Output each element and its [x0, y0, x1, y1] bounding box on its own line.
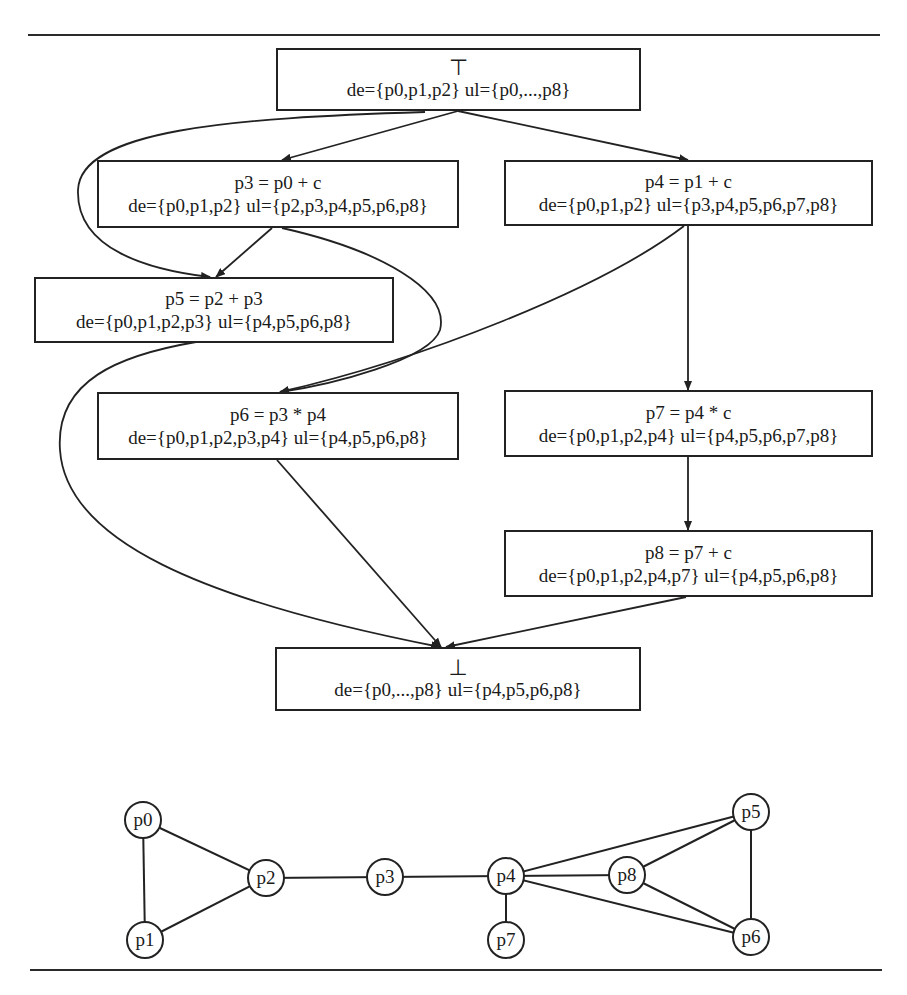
svg-text:p4: p4: [497, 865, 517, 886]
graph-node-p8: p8: [609, 857, 645, 893]
graph-node-p1: p1: [127, 922, 163, 958]
svg-text:p1: p1: [136, 929, 155, 950]
interference-edge-p8-p5: [627, 812, 751, 875]
svg-text:p8: p8: [618, 864, 637, 885]
graph-node-p2: p2: [248, 860, 284, 896]
graph-node-p7: p7: [488, 922, 524, 958]
interference-edge-p1-p2: [145, 878, 266, 940]
svg-text:p7: p7: [497, 929, 516, 950]
graph-node-p6: p6: [733, 919, 769, 955]
graph-node-p5: p5: [733, 794, 769, 830]
svg-text:p3: p3: [376, 866, 395, 887]
svg-text:p0: p0: [134, 809, 153, 830]
interference-edge-p0-p2: [143, 820, 266, 878]
graph-node-p4: p4: [488, 858, 524, 894]
svg-text:p2: p2: [257, 867, 276, 888]
interference-edges: [143, 812, 751, 940]
interference-edge-p8-p6: [627, 875, 751, 937]
graph-node-p3: p3: [367, 859, 403, 895]
interference-graph: p0p1p2p3p4p7p8p5p6: [0, 0, 907, 995]
svg-text:p6: p6: [742, 926, 761, 947]
graph-node-p0: p0: [125, 802, 161, 838]
svg-text:p5: p5: [742, 801, 761, 822]
